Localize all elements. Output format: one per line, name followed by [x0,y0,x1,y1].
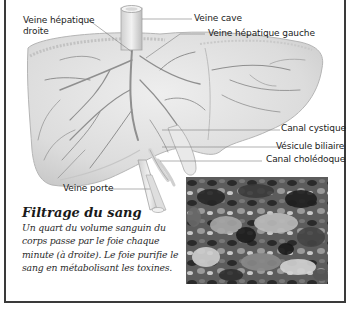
label-canal-cystique: Canal cystique [281,123,346,134]
label-veine-hepatique-droite: Veine hépatique droite [23,15,95,37]
caption-block: Filtrage du sang Un quart du volume sang… [22,205,187,275]
label-line: Veine hépatique [23,15,95,26]
liver-micrograph-image [186,177,328,284]
label-canal-choledoque: Canal cholédoque [266,154,345,165]
caption-body: Un quart du volume sanguin du corps pass… [22,221,187,275]
label-line: droite [23,26,95,37]
label-veine-hepatique-gauche: Veine hépatique gauche [208,28,315,39]
vena-cava [121,6,142,51]
label-veine-cave: Veine cave [194,13,242,24]
label-veine-porte: Veine porte [63,183,113,194]
caption-title: Filtrage du sang [22,205,187,220]
label-vesicule-biliaire: Vésicule biliaire [276,141,344,152]
